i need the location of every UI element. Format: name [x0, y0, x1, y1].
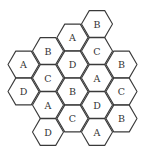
cell-label: D — [69, 59, 77, 70]
hex-grid: ADBCADADBCBCADABCB — [0, 0, 149, 158]
cell-label: B — [94, 19, 101, 30]
cell-label: A — [19, 59, 27, 70]
cell-label: C — [93, 46, 100, 57]
cell-label: D — [93, 100, 101, 111]
cell-label: B — [45, 46, 52, 57]
cell-label: B — [69, 86, 76, 97]
cell-label: A — [93, 73, 101, 84]
cell-label: C — [44, 73, 51, 84]
cell-label: A — [44, 100, 52, 111]
cell-label: C — [69, 113, 76, 124]
cell-label: A — [68, 32, 76, 43]
cell-label: D — [44, 127, 52, 138]
cell-label: B — [118, 59, 125, 70]
cell-label: B — [118, 113, 125, 124]
cell-label: C — [118, 86, 125, 97]
cell-label: D — [20, 86, 28, 97]
cell-label: A — [93, 127, 101, 138]
